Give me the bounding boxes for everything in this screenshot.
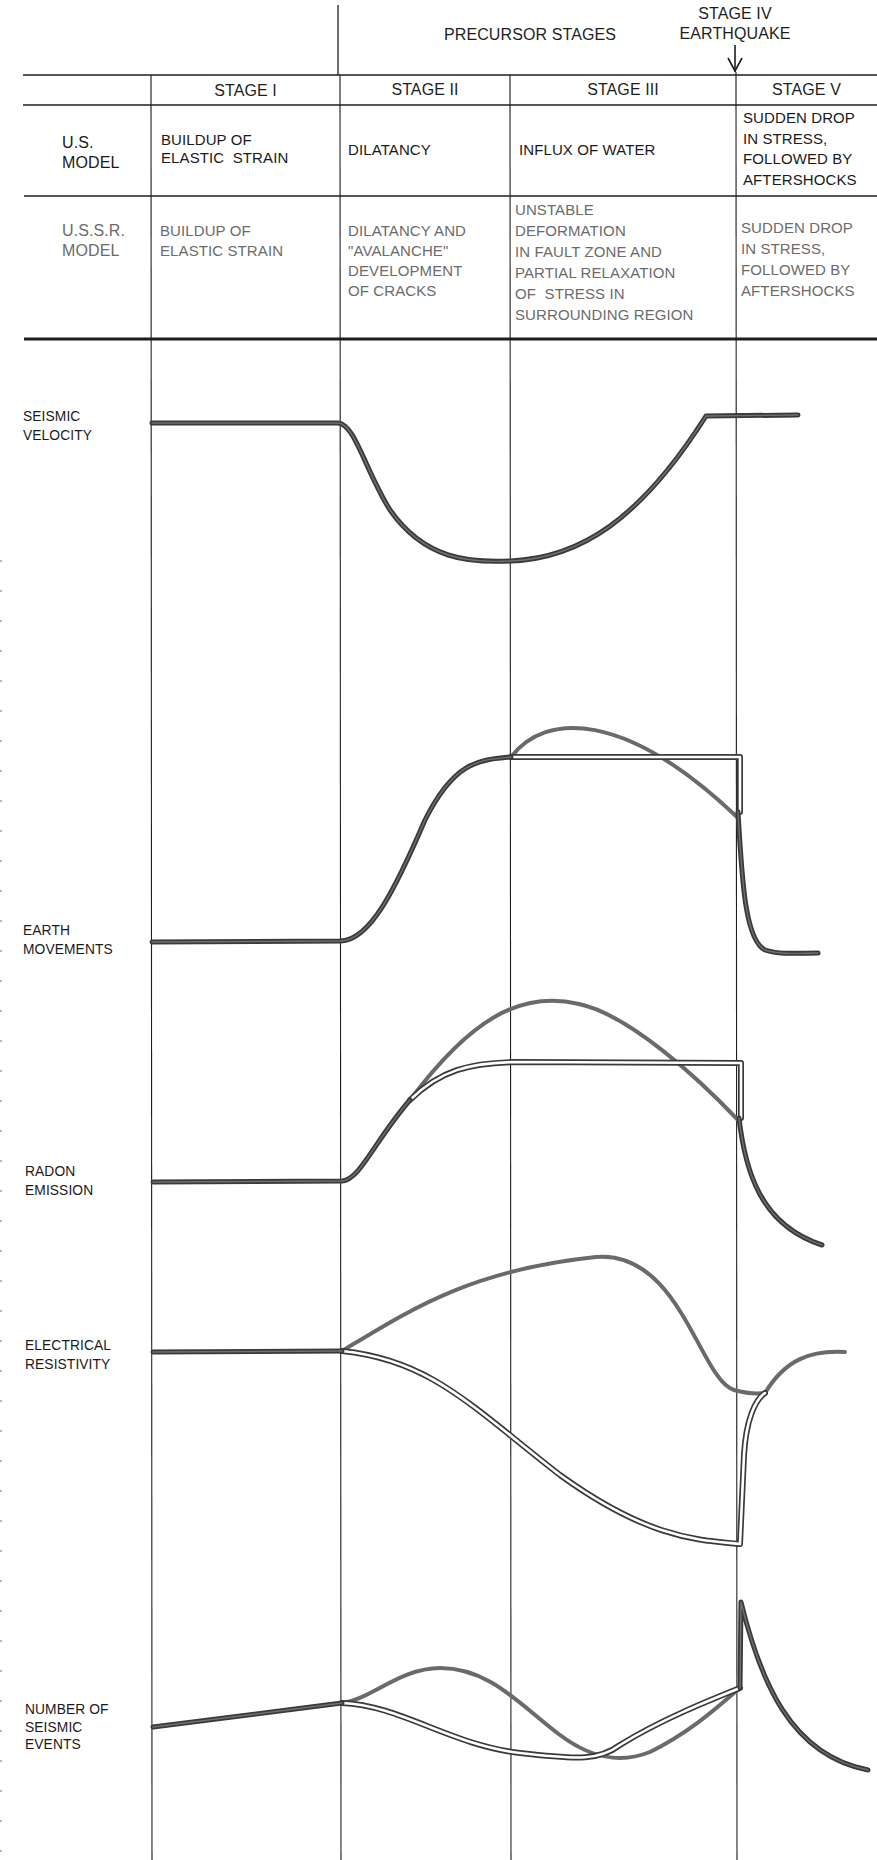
earth-movements-label: EARTH MOVEMENTS	[23, 920, 113, 958]
seismic-velocity-shared-curve	[152, 415, 798, 561]
us-stage-i-cell: BUILDUP OF ELASTIC STRAIN	[161, 131, 288, 167]
stage-iii-header: STAGE III	[510, 80, 736, 100]
number-of-seismic-events-shared-curve-core	[153, 1703, 342, 1727]
earth-movements-aftershock-curve	[738, 812, 818, 953]
stage-iii-boundary	[510, 75, 511, 1860]
ussr-model-label: U.S.S.R. MODEL	[62, 221, 125, 261]
stage-ii-boundary	[340, 75, 341, 1860]
us-stage-ii-cell: DILATANCY	[348, 141, 431, 159]
ussr-stage-i-cell: BUILDUP OF ELASTIC STRAIN	[160, 221, 283, 261]
down-arrow-icon	[728, 45, 742, 72]
stage-i-header: STAGE I	[151, 81, 340, 101]
earth-movements-ussr-curve-outline	[511, 757, 740, 812]
number-of-seismic-events-ussr-curve-inner	[342, 1688, 740, 1758]
radon-emission-ussr-curve-inner	[410, 1062, 741, 1118]
stage-iv-label: STAGE IV	[655, 4, 815, 24]
seismic-velocity-label: SEISMIC VELOCITY	[23, 406, 92, 444]
ussr-stage-v-cell: SUDDEN DROP IN STRESS, FOLLOWED BY AFTER…	[741, 217, 855, 301]
radon-emission-label: RADON EMISSION	[25, 1161, 93, 1199]
electrical-resistivity-ussr-curve-inner	[342, 1351, 765, 1544]
number-of-seismic-events-ussr-curve-outline	[342, 1688, 740, 1758]
electrical-resistivity-label: ELECTRICAL RESISTIVITY	[25, 1335, 111, 1373]
ussr-stage-iii-cell: UNSTABLE DEFORMATION IN FAULT ZONE AND P…	[515, 199, 693, 325]
stage-i-boundary	[151, 75, 152, 1860]
radon-emission-shared-curve	[153, 1100, 410, 1182]
precursor-stages-label: PRECURSOR STAGES	[430, 25, 630, 45]
us-model-label: U.S. MODEL	[62, 133, 119, 173]
seismic-velocity-shared-curve-core	[152, 415, 798, 561]
us-stage-v-cell: SUDDEN DROP IN STRESS, FOLLOWED BY AFTER…	[743, 108, 857, 190]
radon-emission-aftershock-curve	[739, 1118, 822, 1245]
earth-movements-us-curve	[511, 728, 738, 818]
earthquake-label: EARTHQUAKE	[655, 24, 815, 44]
electrical-resistivity-ussr-curve-outline	[342, 1351, 765, 1544]
scan-edge-marks	[0, 560, 2, 1860]
precursor-diagram: PRECURSOR STAGES STAGE IV EARTHQUAKE STA…	[0, 0, 877, 1860]
number-of-seismic-events-aftershock-curve-core	[740, 1602, 868, 1770]
seismic-events-label: NUMBER OF SEISMIC EVENTS	[25, 1700, 109, 1753]
radon-emission-shared-curve-core	[153, 1100, 410, 1182]
stage-ii-header: STAGE II	[340, 80, 510, 100]
us-stage-iii-cell: INFLUX OF WATER	[519, 141, 656, 159]
number-of-seismic-events-aftershock-curve	[740, 1602, 868, 1770]
earth-movements-shared-curve	[152, 757, 511, 942]
earth-movements-ussr-curve-inner	[511, 757, 740, 812]
ussr-stage-ii-cell: DILATANCY AND "AVALANCHE" DEVELOPMENT OF…	[348, 221, 466, 301]
stage-v-header: STAGE V	[736, 80, 877, 100]
earth-movements-shared-curve-core	[152, 757, 511, 942]
